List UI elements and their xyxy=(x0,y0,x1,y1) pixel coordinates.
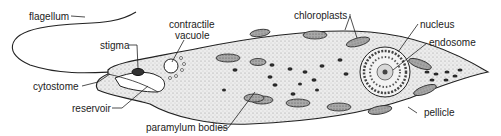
label-nucleus: nucleus xyxy=(420,19,454,30)
label-paramylum-bodies: paramylum bodies xyxy=(146,122,228,133)
nucleus-shape xyxy=(360,47,410,97)
stigma-shape xyxy=(132,69,144,76)
contractile-vacuole-shape xyxy=(164,59,178,73)
label-contractile-vacuole-line1: contractile xyxy=(169,19,215,30)
label-reservoir: reservoir xyxy=(72,103,111,114)
label-contractile-vacuole-line2: vacuole xyxy=(175,30,209,41)
label-chloroplasts: chloroplasts xyxy=(294,10,347,21)
label-pellicle: pellicle xyxy=(424,107,455,118)
label-flagellum: flagellum xyxy=(29,11,69,22)
label-endosome: endosome xyxy=(429,37,476,48)
label-cytostome: cytostome xyxy=(33,81,79,92)
label-stigma: stigma xyxy=(100,40,129,51)
